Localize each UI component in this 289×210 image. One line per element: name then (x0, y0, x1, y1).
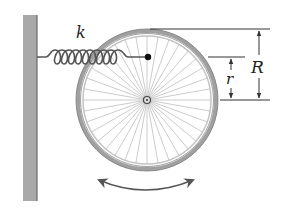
outer-radius-label: R (250, 57, 264, 77)
wall (23, 15, 37, 201)
attachment-radius-label: r (226, 70, 234, 88)
spring-wheel-diagram: k R r (0, 0, 289, 210)
spring-constant-label: k (76, 23, 86, 42)
oscillation-arrow (99, 180, 193, 190)
attachment-point (145, 54, 151, 60)
